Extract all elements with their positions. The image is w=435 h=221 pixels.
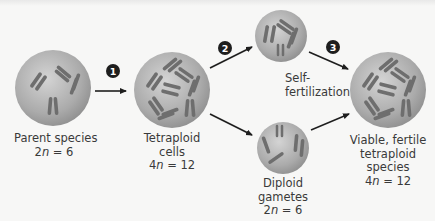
svg-text:1: 1 (110, 66, 117, 77)
arrow-step-3 (309, 52, 348, 69)
step-badge-2: 2 (218, 41, 232, 55)
parent-species-cell (15, 50, 91, 126)
self-fertilization-line2: fertilization (285, 86, 365, 100)
diploid-gametes-cell (257, 122, 309, 174)
arrow-to-diploid-gametes (210, 114, 252, 135)
tetraploid-cells-formula: 4n = 12 (132, 159, 212, 173)
self-fertilization-label: Self- fertilization (285, 72, 365, 99)
svg-text:2: 2 (222, 43, 229, 54)
step-badge-3: 3 (326, 40, 340, 54)
self-fertilization-cell (255, 10, 307, 62)
self-fertilization-line1: Self- (285, 72, 365, 86)
viable-species-line3: species (343, 161, 433, 175)
diploid-gametes-line1: Diploid (243, 177, 323, 191)
parent-species-label: Parent species 2n = 6 (14, 132, 94, 159)
viable-species-label: Viable, fertile tetraploid species 4n = … (343, 134, 433, 188)
tetraploid-cells-line2: cells (132, 146, 212, 160)
viable-species-line1: Viable, fertile (343, 134, 433, 148)
diploid-gametes-label: Diploid gametes 2n = 6 (243, 177, 323, 218)
viable-species-line2: tetraploid (343, 148, 433, 162)
arrow-gametes-to-species (311, 114, 349, 130)
svg-text:3: 3 (330, 42, 337, 53)
step-badge-1: 1 (106, 64, 120, 78)
tetraploid-cells-line1: Tetraploid (132, 132, 212, 146)
tetraploid-cell (134, 52, 210, 128)
parent-species-formula: 2n = 6 (14, 146, 94, 160)
viable-species-formula: 4n = 12 (343, 175, 433, 189)
parent-species-name: Parent species (14, 132, 94, 146)
tetraploid-cells-label: Tetraploid cells 4n = 12 (132, 132, 212, 173)
diploid-gametes-line2: gametes (243, 191, 323, 205)
diploid-gametes-formula: 2n = 6 (243, 204, 323, 218)
